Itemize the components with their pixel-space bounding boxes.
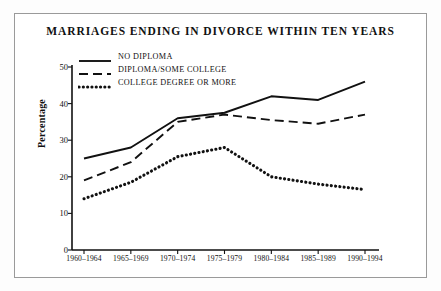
plot-area bbox=[72, 67, 377, 250]
y-axis-tick-labels: 01020304050 bbox=[44, 67, 68, 250]
legend-item[interactable]: COLLEGE DEGREE OR MORE bbox=[78, 76, 308, 89]
chart-legend: NO DIPLOMADIPLOMA/SOME COLLEGECOLLEGE DE… bbox=[78, 50, 308, 89]
legend-line-swatch bbox=[78, 52, 112, 62]
y-axis-tick-label: 30 bbox=[46, 135, 68, 145]
series-canvas bbox=[72, 67, 377, 250]
y-axis-tick-label: 10 bbox=[46, 208, 68, 218]
y-axis-tick-label: 50 bbox=[46, 62, 68, 72]
legend-item[interactable]: NO DIPLOMA bbox=[78, 50, 308, 63]
chart-figure: MARRIAGES ENDING IN DIVORCE WITHIN TEN Y… bbox=[0, 0, 441, 291]
chart-title: MARRIAGES ENDING IN DIVORCE WITHIN TEN Y… bbox=[0, 25, 441, 37]
legend-item-label: NO DIPLOMA bbox=[118, 52, 173, 61]
legend-item-label: DIPLOMA/SOME COLLEGE bbox=[118, 65, 227, 74]
y-axis-tick-label: 40 bbox=[46, 99, 68, 109]
legend-line-swatch bbox=[78, 65, 112, 75]
legend-item-label: COLLEGE DEGREE OR MORE bbox=[118, 78, 236, 87]
legend-item[interactable]: DIPLOMA/SOME COLLEGE bbox=[78, 63, 308, 76]
x-axis-tick-labels: 1960–19641965–19691970–19741975–19791980… bbox=[72, 254, 377, 270]
data-series-line bbox=[84, 148, 365, 199]
legend-line-swatch bbox=[78, 78, 112, 88]
x-axis-tick-label: 1990–1994 bbox=[333, 254, 397, 263]
y-axis-tick-label: 20 bbox=[46, 172, 68, 182]
